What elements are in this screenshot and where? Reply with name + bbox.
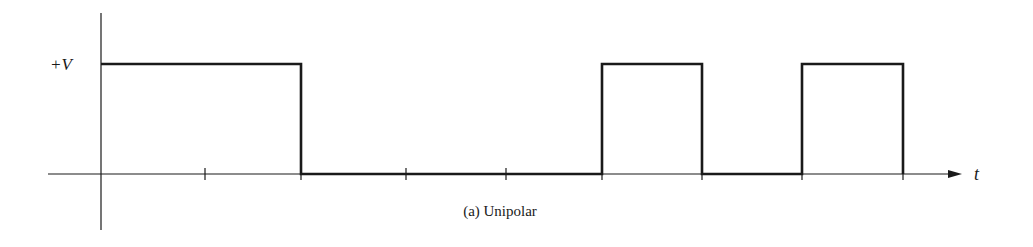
time-axis-arrowhead bbox=[948, 170, 962, 178]
x-axis-label-t: t bbox=[974, 164, 980, 184]
unipolar-waveform-diagram: +V t (a) Unipolar bbox=[0, 0, 1033, 247]
unipolar-signal-waveform bbox=[101, 64, 903, 174]
y-axis-label-plus-v: +V bbox=[50, 55, 74, 74]
figure-caption: (a) Unipolar bbox=[463, 203, 537, 220]
axes bbox=[48, 13, 952, 230]
